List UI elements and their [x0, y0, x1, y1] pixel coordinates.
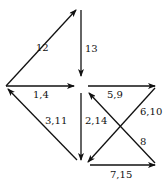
edges-layer [0, 0, 163, 185]
edge-label: 6,10 [140, 107, 162, 117]
edge-label: 8 [140, 137, 146, 147]
edge-label: 3,11 [45, 116, 67, 126]
graph-diagram: 12131,43,112,145,96,1087,15 [0, 0, 163, 185]
edge-label: 12 [36, 43, 49, 53]
edge-label: 1,4 [33, 90, 49, 100]
edge-label: 13 [85, 44, 98, 54]
edge-label: 5,9 [107, 90, 123, 100]
edge-label: 2,14 [85, 116, 107, 126]
edge-arrow-e8 [89, 93, 155, 163]
edge-label: 7,15 [110, 170, 132, 180]
